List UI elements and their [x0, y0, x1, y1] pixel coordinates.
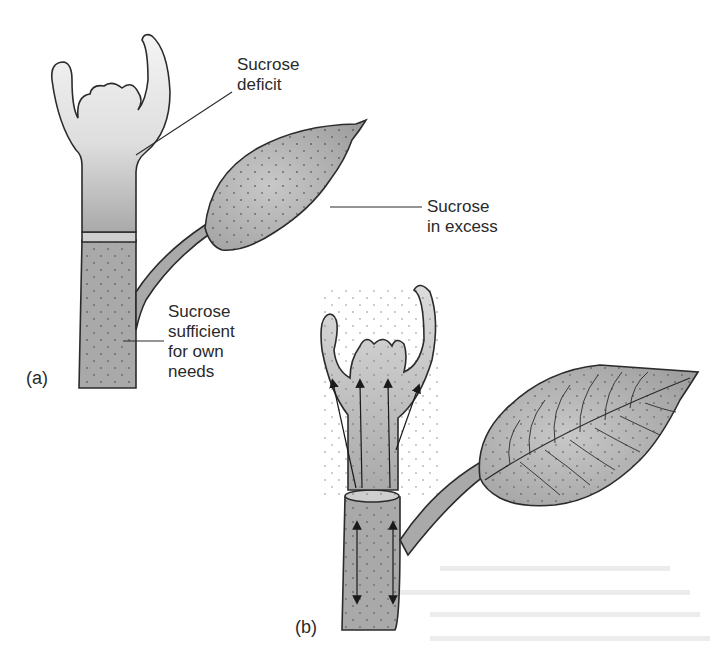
label-line: Sucrose [427, 197, 498, 217]
label-sucrose-deficit: Sucrose deficit [237, 55, 299, 95]
label-line: Sucrose [237, 55, 299, 75]
label-line: deficit [237, 75, 299, 95]
label-sucrose-sufficient: Sucrose sufficient for own needs [168, 302, 235, 382]
label-line: Sucrose [168, 302, 235, 322]
label-sucrose-in-excess: Sucrose in excess [427, 197, 498, 237]
bleed-through-text [390, 566, 710, 641]
panel-label-b: (b) [295, 617, 317, 638]
panel-b-shoot [321, 285, 698, 630]
label-line: for own [168, 342, 235, 362]
panel-label-a: (a) [26, 368, 48, 389]
figure: Sucrose deficit Sucrose in excess Sucros… [0, 0, 723, 655]
label-line: sufficient [168, 322, 235, 342]
label-line: needs [168, 362, 235, 382]
label-line: in excess [427, 217, 498, 237]
diagram-canvas [0, 0, 723, 655]
